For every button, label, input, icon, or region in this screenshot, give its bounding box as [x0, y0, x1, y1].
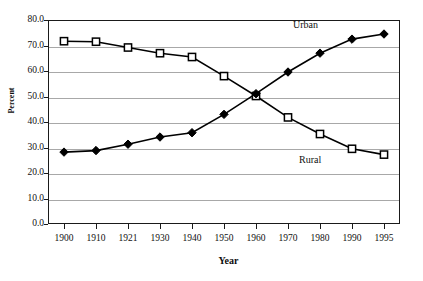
- x-axis-tick-mark: [256, 224, 257, 229]
- series-label-urban: Urban: [293, 19, 318, 30]
- x-axis-tick-mark: [160, 224, 161, 229]
- y-axis-tick-label: 10.0: [10, 194, 44, 204]
- y-axis-tick-mark: [44, 46, 48, 47]
- y-axis-tick-label: 70.0: [10, 41, 44, 51]
- y-axis-tick-mark: [44, 20, 48, 21]
- gridline: [49, 200, 399, 201]
- y-axis-tick-mark: [44, 148, 48, 149]
- y-axis-tick-mark: [44, 224, 48, 225]
- plot-area: [48, 20, 400, 224]
- y-axis-tick-label: 80.0: [10, 15, 44, 25]
- x-axis-tick-mark: [64, 224, 65, 229]
- y-axis-tick-label: 60.0: [10, 66, 44, 76]
- y-axis-tick-label: 20.0: [10, 168, 44, 178]
- gridline: [49, 72, 399, 73]
- y-axis-tick-label: 40.0: [10, 117, 44, 127]
- y-axis-tick-label: 0.0: [10, 219, 44, 229]
- x-axis-tick-mark: [384, 224, 385, 229]
- y-axis-tick-mark: [44, 122, 48, 123]
- y-axis-tick-mark: [44, 71, 48, 72]
- chart-figure: Percent 0.010.020.030.040.050.060.070.08…: [0, 0, 423, 281]
- gridline: [49, 174, 399, 175]
- gridline: [49, 123, 399, 124]
- x-axis-tick-mark: [352, 224, 353, 229]
- x-axis-title: Year: [0, 255, 423, 266]
- y-axis-tick-mark: [44, 173, 48, 174]
- x-axis-tick-mark: [128, 224, 129, 229]
- gridline: [49, 47, 399, 48]
- x-axis-tick-mark: [224, 224, 225, 229]
- series-label-rural: Rural: [299, 154, 321, 165]
- x-axis-tick-label: 1995: [364, 234, 404, 244]
- gridline: [49, 149, 399, 150]
- x-axis-tick-mark: [288, 224, 289, 229]
- x-axis-tick-mark: [192, 224, 193, 229]
- x-axis-tick-mark: [96, 224, 97, 229]
- y-axis-tick-label: 50.0: [10, 92, 44, 102]
- x-axis-title-text: Year: [185, 255, 239, 266]
- x-axis-tick-mark: [320, 224, 321, 229]
- y-axis-tick-mark: [44, 199, 48, 200]
- gridline: [49, 98, 399, 99]
- y-axis-tick-mark: [44, 97, 48, 98]
- y-axis-tick-label: 30.0: [10, 143, 44, 153]
